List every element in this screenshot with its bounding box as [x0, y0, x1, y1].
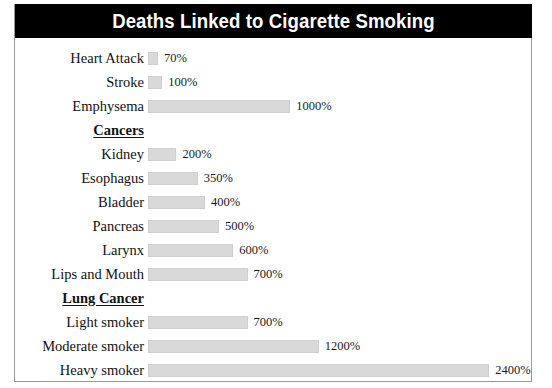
bar-value-label: 70%: [164, 52, 187, 65]
bar-track: 600%: [148, 238, 531, 262]
bar-value-label: 400%: [211, 196, 240, 209]
bar-row: Heart Attack70%: [15, 46, 531, 70]
bar-value-label: 700%: [254, 268, 283, 281]
bar-value-label: 1000%: [296, 100, 331, 113]
bar-row-label: Light smoker: [15, 310, 144, 334]
bar-row: Moderate smoker1200%: [15, 334, 531, 358]
bar-track: 70%: [148, 46, 531, 70]
bar-row-label: Stroke: [15, 70, 144, 94]
bar-row-label: Esophagus: [15, 166, 144, 190]
bar-row-label: Heavy smoker: [15, 358, 144, 382]
bar: [148, 100, 290, 113]
bar: [148, 268, 248, 281]
bar-row-label: Heart Attack: [15, 46, 144, 70]
section-header-row: Lung Cancer: [15, 286, 531, 310]
bar: [148, 76, 162, 89]
bar-row-label: Moderate smoker: [15, 334, 144, 358]
bar-row-label: Pancreas: [15, 214, 144, 238]
bar-row: Pancreas500%: [15, 214, 531, 238]
chart-figure: Deaths Linked to Cigarette Smoking Heart…: [0, 0, 552, 388]
bar-row-label: Kidney: [15, 142, 144, 166]
bar: [148, 196, 205, 209]
section-header-row: Cancers: [15, 118, 531, 142]
bar: [148, 316, 248, 329]
bar-track: 400%: [148, 190, 531, 214]
bar-row: Bladder400%: [15, 190, 531, 214]
page-title: Deaths Linked to Cigarette Smoking: [112, 10, 435, 33]
bar-value-label: 350%: [204, 172, 233, 185]
bar-rows: Heart Attack70%Stroke100%Emphysema1000%C…: [15, 46, 531, 382]
bar-value-label: 700%: [254, 316, 283, 329]
bar-row: Kidney200%: [15, 142, 531, 166]
bar-row: Emphysema1000%: [15, 94, 531, 118]
bar-row: Light smoker700%: [15, 310, 531, 334]
bar-row: Esophagus350%: [15, 166, 531, 190]
bar-row: Heavy smoker2400%: [15, 358, 531, 382]
bar: [148, 220, 219, 233]
bar-track: 700%: [148, 262, 531, 286]
bar-row-label: Larynx: [15, 238, 144, 262]
bar-track: 200%: [148, 142, 531, 166]
section-header-label: Cancers: [15, 118, 144, 142]
bar-value-label: 1200%: [325, 340, 360, 353]
bar-track: 100%: [148, 70, 531, 94]
bar-track: 350%: [148, 166, 531, 190]
bar-track: 500%: [148, 214, 531, 238]
bar-value-label: 500%: [225, 220, 254, 233]
bar: [148, 340, 319, 353]
bar-value-label: 600%: [239, 244, 268, 257]
chart-title-banner: Deaths Linked to Cigarette Smoking: [15, 4, 532, 38]
bar-value-label: 200%: [182, 148, 211, 161]
bar-row: Stroke100%: [15, 70, 531, 94]
bar: [148, 148, 176, 161]
bar-row-label: Bladder: [15, 190, 144, 214]
bar: [148, 52, 158, 65]
bar-row-label: Lips and Mouth: [15, 262, 144, 286]
bar-value-label: 100%: [168, 76, 197, 89]
bar: [148, 364, 489, 377]
bar-track: 2400%: [148, 358, 531, 382]
bar-value-label: 2400%: [495, 364, 530, 377]
bar: [148, 172, 198, 185]
section-header-label: Lung Cancer: [15, 286, 144, 310]
bar-row: Larynx600%: [15, 238, 531, 262]
bar: [148, 244, 233, 257]
bar-track: 1200%: [148, 334, 531, 358]
bar-row-label: Emphysema: [15, 94, 144, 118]
bar-track: 700%: [148, 310, 531, 334]
bar-track: 1000%: [148, 94, 531, 118]
bar-row: Lips and Mouth700%: [15, 262, 531, 286]
